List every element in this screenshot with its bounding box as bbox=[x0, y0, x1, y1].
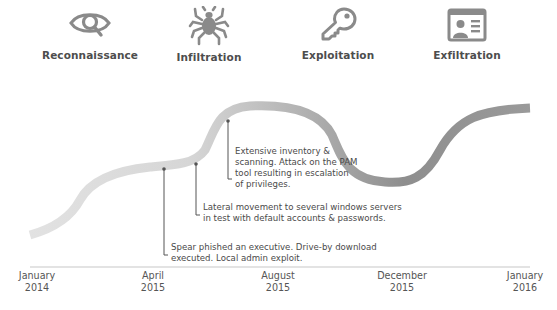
tick-year: 2016 bbox=[485, 282, 557, 294]
annotation-scanning: Extensive inventory & scanning. Attack o… bbox=[235, 146, 357, 190]
tick-month: August bbox=[238, 270, 318, 282]
tick-month: April bbox=[113, 270, 193, 282]
axis-tick-jan-2014: January 2014 bbox=[0, 270, 77, 294]
axis-tick-aug-2015: August 2015 bbox=[238, 270, 318, 294]
annotation-lateral-movement: Lateral movement to several windows serv… bbox=[203, 202, 402, 224]
axis-tick-apr-2015: April 2015 bbox=[113, 270, 193, 294]
axis-tick-jan-2016: January 2016 bbox=[485, 270, 557, 294]
tick-year: 2015 bbox=[238, 282, 318, 294]
tick-year: 2014 bbox=[0, 282, 77, 294]
leader-line-spear-phish bbox=[162, 167, 168, 255]
tick-year: 2015 bbox=[362, 282, 442, 294]
tick-month: January bbox=[0, 270, 77, 282]
leader-line-scanning bbox=[226, 119, 232, 179]
tick-year: 2015 bbox=[113, 282, 193, 294]
leader-line-lateral bbox=[194, 162, 200, 215]
axis-tick-dec-2015: December 2015 bbox=[362, 270, 442, 294]
tick-month: December bbox=[362, 270, 442, 282]
tick-month: January bbox=[485, 270, 557, 282]
annotation-spear-phish: Spear phished an executive. Drive-by dow… bbox=[171, 242, 377, 264]
